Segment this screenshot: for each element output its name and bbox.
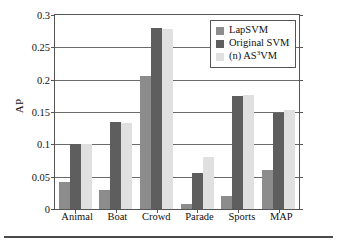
bar [243,95,254,209]
bar [203,157,214,209]
legend-label: (n) AS3VM [229,51,277,62]
y-axis-tick-mark [51,209,55,210]
bar [284,110,295,209]
y-axis-tick-mark-right [299,209,303,210]
bar [140,76,151,209]
legend-label: LapSVM [229,25,268,36]
bottom-divider-rule [4,236,333,238]
bar-group [99,15,132,209]
legend-swatch [216,40,224,48]
legend-swatch [216,53,224,61]
x-axis-tick-label: Parade [185,211,214,222]
bar-chart-figure: AP 00.050.10.150.20.250.3 AnimalBoatCrow… [0,0,337,244]
bar [181,204,192,209]
y-axis-tick-label: 0.2 [37,74,50,85]
y-axis-tick-label: 0.05 [32,171,50,182]
x-axis-tick-label: Boat [107,211,127,222]
legend-item: LapSVM [216,24,289,37]
bar-group [140,15,173,209]
legend-item: (n) AS3VM [216,50,289,63]
bar [232,96,243,209]
chart-legend: LapSVMOriginal SVM(n) AS3VM [210,20,296,68]
y-axis-tick-label: 0.25 [32,42,50,53]
y-axis-tick-mark-right [299,112,303,113]
bar [192,173,203,209]
bar [110,122,121,209]
legend-swatch [216,27,224,35]
bar [162,29,173,209]
y-axis-tick-mark-right [299,47,303,48]
bar [121,123,132,209]
bar [221,196,232,209]
bar [273,113,284,209]
y-axis-title: AP [13,86,33,126]
x-axis-tick-label: MAP [270,211,293,222]
x-axis-tick-label: Sports [228,211,255,222]
bar [262,170,273,209]
bar [99,190,110,209]
y-axis-tick-mark-right [299,15,303,16]
y-axis-tick-mark-right [299,80,303,81]
legend-item: Original SVM [216,37,289,50]
x-axis-tick-labels: AnimalBoatCrowdParadeSportsMAP [54,211,300,229]
x-axis-tick-label: Animal [61,211,93,222]
y-axis-tick-label: 0.15 [32,107,50,118]
y-axis-tick-label: 0.3 [37,10,50,21]
bar-group [59,15,92,209]
bar-group [181,15,214,209]
bar [70,144,81,209]
y-axis-tick-mark-right [299,144,303,145]
bar [151,28,162,209]
legend-label: Original SVM [229,38,289,49]
bar [81,144,92,209]
x-axis-tick-label: Crowd [142,211,171,222]
y-axis-tick-mark-right [299,177,303,178]
y-axis-tick-label: 0 [45,204,50,215]
bar [59,182,70,209]
y-axis-tick-label: 0.1 [37,139,50,150]
